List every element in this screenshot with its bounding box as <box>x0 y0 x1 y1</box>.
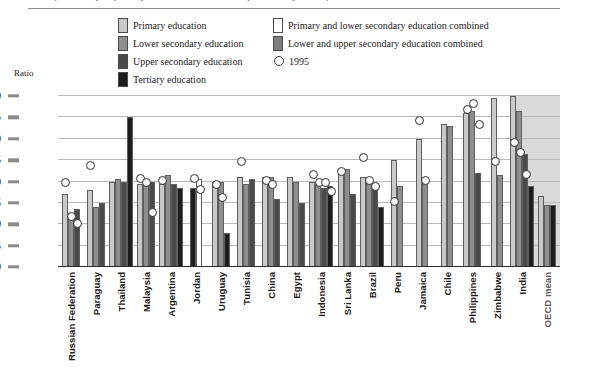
legend-item-label: Primary and lower secondary education co… <box>288 20 489 31</box>
x-axis-label-cell: India <box>510 270 535 370</box>
y-tick-label: 20 <box>0 177 1 187</box>
x-axis-label-cell: Egypt <box>284 270 309 370</box>
bars <box>234 96 259 267</box>
marker-1995 <box>491 157 500 166</box>
bar-group <box>108 96 133 267</box>
bar-group <box>83 96 108 267</box>
marker-1995 <box>73 219 82 228</box>
x-axis-label-cell: Malaysia <box>133 270 158 370</box>
bar <box>299 203 305 267</box>
circle-marker-icon <box>274 56 284 66</box>
marker-1995 <box>218 193 227 202</box>
x-axis-label: Tunisia <box>241 272 252 305</box>
legend-item-upper_secondary: Upper secondary education <box>118 52 244 70</box>
x-axis-label-cell: Peru <box>384 270 409 370</box>
legend-item-tertiary: Tertiary education <box>118 70 244 88</box>
y-tick-dash <box>8 244 19 247</box>
legend-item-label: Lower secondary education <box>133 38 244 49</box>
swatch-primary_lower_combined-icon <box>273 18 283 33</box>
x-axis-label-cell: Thailand <box>108 270 133 370</box>
x-axis-label: Brazil <box>366 272 377 298</box>
swatch-lower_secondary-icon <box>118 36 128 51</box>
x-axis-label: India <box>517 272 528 294</box>
bars <box>108 96 133 267</box>
marker-1995 <box>190 174 199 183</box>
x-axis-label: China <box>266 272 277 299</box>
bar <box>149 182 155 268</box>
legend-item-lower_upper_combined: Lower and upper secondary education comb… <box>273 34 489 52</box>
x-axis-label-cell: Jordan <box>183 270 208 370</box>
y-tick-label: 10 <box>0 219 1 229</box>
x-axis-label: Peru <box>391 272 402 293</box>
x-axis-label-cell: Philippines <box>460 270 485 370</box>
bar-group <box>485 96 510 267</box>
x-axis-label-cell: Chile <box>434 270 459 370</box>
bar-group <box>58 96 83 267</box>
marker-1995 <box>475 120 484 129</box>
x-axis-label-cell: Argentina <box>158 270 183 370</box>
bar-group <box>409 96 434 267</box>
x-axis-label-cell: Brazil <box>359 270 384 370</box>
x-axis-label: Chile <box>441 272 452 295</box>
x-axis-label-cell: China <box>259 270 284 370</box>
x-axis-label-cell: Tunisia <box>234 270 259 370</box>
bar-group <box>284 96 309 267</box>
bar <box>350 194 356 267</box>
x-axis-label: Indonesia <box>316 272 327 317</box>
legend-item-label: Lower and upper secondary education comb… <box>288 38 483 49</box>
bar <box>249 179 255 267</box>
x-axis-label: Egypt <box>291 272 302 299</box>
legend-item-label: Tertiary education <box>133 74 206 85</box>
bar <box>127 117 133 267</box>
x-axis-label: Jamaica <box>416 272 427 310</box>
y-tick-label: 35 <box>0 112 1 122</box>
chart-figure: ratio of secondary to primary teachers' … <box>0 0 589 373</box>
bar <box>422 182 428 268</box>
bar-group <box>133 96 158 267</box>
y-tick-label: 0 <box>0 262 1 272</box>
bar <box>224 233 230 267</box>
bar-group <box>158 96 183 267</box>
bar-group <box>234 96 259 267</box>
y-axis-label: Ratio <box>14 68 34 78</box>
bars <box>434 96 459 267</box>
bar-group <box>535 96 560 267</box>
bar <box>378 207 384 267</box>
bar-group <box>334 96 359 267</box>
marker-1995 <box>212 180 221 189</box>
marker-1995 <box>309 170 318 179</box>
legend-item-marker_1995: 1995 <box>273 52 489 70</box>
bar <box>99 203 105 267</box>
bar <box>528 186 534 267</box>
x-axis-line <box>58 266 560 267</box>
x-axis-label: Paraguay <box>90 272 101 315</box>
bar-group <box>384 96 409 267</box>
bars <box>384 96 409 267</box>
x-axis-label-cell: Uruguay <box>209 270 234 370</box>
x-axis-label-cell: OECD mean <box>535 270 560 370</box>
plot-area <box>58 96 560 267</box>
x-axis-label-cell: Jamaica <box>409 270 434 370</box>
legend-item-primary_lower_combined: Primary and lower secondary education co… <box>273 16 489 34</box>
bar <box>497 175 503 267</box>
bar <box>274 199 280 267</box>
bars <box>83 96 108 267</box>
x-axis-label: Sri Lanka <box>341 272 352 315</box>
bar <box>177 188 183 267</box>
bar-groups <box>58 96 560 267</box>
y-tick-dash <box>8 180 19 183</box>
bars <box>535 96 560 267</box>
y-tick-label: 5 <box>0 241 1 251</box>
bars <box>284 96 309 267</box>
bar <box>550 205 556 267</box>
y-tick-dash <box>8 265 19 268</box>
x-axis-label-cell: Indonesia <box>309 270 334 370</box>
bar-group <box>183 96 208 267</box>
marker-1995 <box>522 170 531 179</box>
bar-group <box>359 96 384 267</box>
x-axis-label: Zimbabwe <box>492 272 503 319</box>
x-axis-label-cell: Paraguay <box>83 270 108 370</box>
x-axis-label: OECD mean <box>542 272 553 327</box>
y-tick-dash <box>8 223 19 226</box>
bar <box>327 186 333 267</box>
